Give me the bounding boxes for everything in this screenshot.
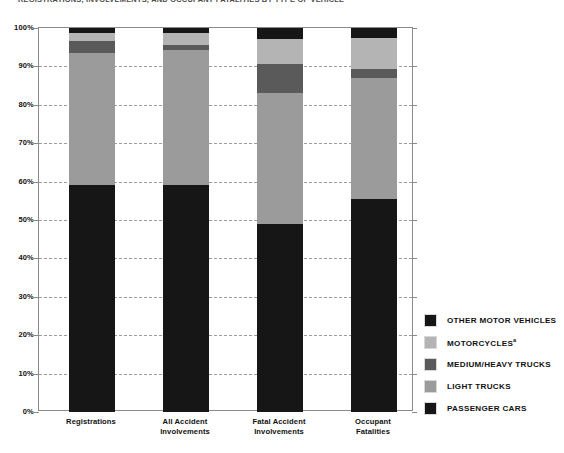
axis-tick: [34, 412, 39, 413]
y-axis-tick-label: 30%: [2, 291, 34, 300]
legend-item[interactable]: MOTORCYCLESa: [424, 331, 562, 353]
axis-tick: [412, 143, 417, 144]
bar-segment: [69, 33, 115, 41]
axis-tick: [412, 258, 417, 259]
axis-tick: [412, 374, 417, 375]
x-axis-tick-label: Registrations: [41, 417, 141, 427]
axis-tick: [412, 412, 417, 413]
axis-tick: [412, 335, 417, 336]
axis-tick: [412, 105, 417, 106]
axis-tick: [34, 297, 39, 298]
legend-label: MOTORCYCLESa: [447, 337, 517, 348]
legend-item[interactable]: MEDIUM/HEAVY TRUCKS: [424, 353, 562, 375]
bar-segment: [351, 199, 397, 412]
bar-segment: [163, 33, 209, 46]
bar-stack: [163, 28, 209, 412]
axis-tick: [34, 335, 39, 336]
bar-segment: [163, 50, 209, 184]
bar-segment: [351, 28, 397, 38]
bar-segment: [257, 64, 303, 93]
bar-segment: [257, 28, 303, 39]
y-axis-tick-label: 90%: [2, 61, 34, 70]
bar-segment: [257, 224, 303, 412]
bar-stack: [351, 28, 397, 412]
legend-swatch: [424, 336, 437, 349]
axis-tick: [412, 66, 417, 67]
y-axis-tick-label: 40%: [2, 253, 34, 262]
y-axis-tick-label: 20%: [2, 330, 34, 339]
bar-stack: [69, 28, 115, 412]
legend-swatch: [424, 314, 437, 327]
y-axis-tick-label: 10%: [2, 368, 34, 377]
legend-swatch: [424, 358, 437, 371]
axis-tick: [412, 182, 417, 183]
axis-tick: [34, 220, 39, 221]
axis-tick: [34, 143, 39, 144]
y-axis-tick-label: 60%: [2, 176, 34, 185]
legend-swatch: [424, 402, 437, 415]
y-axis-tick-label: 70%: [2, 138, 34, 147]
legend-item[interactable]: OTHER MOTOR VEHICLES: [424, 309, 562, 331]
bar-segment: [69, 41, 115, 53]
bar-segment: [351, 38, 397, 70]
bar-segment: [351, 69, 397, 77]
bar-segment: [69, 53, 115, 185]
x-axis-tick-label: OccupantFatalities: [323, 417, 423, 437]
y-axis-tick-label: 100%: [2, 23, 34, 32]
legend-label: OTHER MOTOR VEHICLES: [447, 316, 556, 325]
legend-item[interactable]: LIGHT TRUCKS: [424, 375, 562, 397]
bar-segment: [351, 78, 397, 199]
chart-legend: OTHER MOTOR VEHICLESMOTORCYCLESaMEDIUM/H…: [424, 309, 562, 419]
bar-stack: [257, 28, 303, 412]
chart-title: REGISTRATIONS, INVOLVEMENTS, AND OCCUPAN…: [18, 0, 344, 4]
x-axis-tick-label: Fatal AccidentInvolvements: [229, 417, 329, 437]
bar-segment: [257, 39, 303, 64]
axis-tick: [34, 28, 39, 29]
chart-title-clip: REGISTRATIONS, INVOLVEMENTS, AND OCCUPAN…: [0, 0, 564, 6]
axis-tick: [34, 374, 39, 375]
axis-tick: [412, 297, 417, 298]
bar-segment: [163, 185, 209, 412]
y-axis-tick-label: 0%: [2, 407, 34, 416]
legend-swatch: [424, 380, 437, 393]
x-axis-tick-label: All AccidentInvolvements: [135, 417, 235, 437]
legend-label: MEDIUM/HEAVY TRUCKS: [447, 360, 551, 369]
legend-label: PASSENGER CARS: [447, 404, 527, 413]
chart-figure: REGISTRATIONS, INVOLVEMENTS, AND OCCUPAN…: [0, 0, 564, 453]
axis-tick: [34, 105, 39, 106]
bar-segment: [69, 185, 115, 412]
bar-segment: [257, 93, 303, 224]
axis-tick: [34, 258, 39, 259]
plot-area: [38, 27, 413, 411]
y-axis-tick-label: 80%: [2, 99, 34, 108]
axis-tick: [34, 182, 39, 183]
legend-item[interactable]: PASSENGER CARS: [424, 397, 562, 419]
legend-label: LIGHT TRUCKS: [447, 382, 511, 391]
axis-tick: [412, 220, 417, 221]
axis-tick: [412, 28, 417, 29]
axis-tick: [34, 66, 39, 67]
y-axis-tick-label: 50%: [2, 215, 34, 224]
